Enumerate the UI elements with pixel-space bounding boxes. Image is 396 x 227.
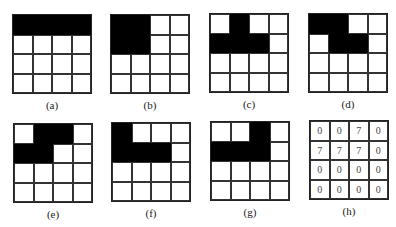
empty-cell: [170, 35, 190, 55]
filled-cell: [231, 142, 251, 162]
value-cell: 0: [369, 180, 389, 200]
empty-cell: [150, 54, 170, 74]
grid-f: [111, 122, 191, 202]
empty-cell: [72, 54, 92, 74]
panel-label: (f): [111, 207, 191, 219]
empty-cell: [132, 123, 152, 143]
grid-c: [209, 13, 289, 93]
empty-cell: [170, 15, 190, 35]
empty-cell: [269, 73, 289, 93]
empty-cell: [348, 53, 368, 73]
panel-b: (b): [110, 14, 190, 111]
empty-cell: [33, 54, 53, 74]
empty-cell: [249, 73, 269, 93]
panel-e: (e): [13, 123, 93, 220]
value-cell: 0: [369, 121, 389, 141]
empty-cell: [150, 15, 170, 35]
value-cell: 7: [330, 141, 350, 161]
empty-cell: [250, 181, 270, 201]
empty-cell: [34, 183, 54, 203]
empty-cell: [150, 74, 170, 94]
filled-cell: [131, 15, 151, 35]
filled-cell: [112, 123, 132, 143]
filled-cell: [250, 122, 270, 142]
panel-d: (d): [308, 13, 388, 110]
empty-cell: [112, 182, 132, 202]
panel-label: (b): [110, 99, 190, 111]
filled-cell: [52, 15, 72, 35]
filled-cell: [34, 144, 54, 164]
value-cell: 0: [310, 180, 330, 200]
empty-cell: [348, 14, 368, 34]
panel-label: (c): [209, 98, 289, 110]
empty-cell: [368, 73, 388, 93]
empty-cell: [230, 53, 250, 73]
panel-a: (a): [12, 14, 92, 111]
panel-label: (e): [13, 208, 93, 220]
empty-cell: [368, 53, 388, 73]
panel-f: (f): [111, 122, 191, 219]
empty-cell: [309, 53, 329, 73]
empty-cell: [151, 182, 171, 202]
empty-cell: [151, 123, 171, 143]
value-cell: 0: [330, 160, 350, 180]
empty-cell: [249, 14, 269, 34]
empty-cell: [231, 181, 251, 201]
grid-g: [210, 121, 290, 201]
empty-cell: [52, 74, 72, 94]
filled-cell: [329, 14, 349, 34]
empty-cell: [269, 53, 289, 73]
empty-cell: [72, 35, 92, 55]
empty-cell: [112, 162, 132, 182]
value-cell: 0: [369, 141, 389, 161]
empty-cell: [269, 34, 289, 54]
value-cell: 0: [369, 160, 389, 180]
value-cell: 0: [330, 121, 350, 141]
empty-cell: [72, 74, 92, 94]
empty-cell: [73, 183, 93, 203]
panel-h: 0070777000000000(h): [309, 120, 389, 217]
empty-cell: [13, 74, 33, 94]
filled-cell: [13, 15, 33, 35]
filled-cell: [14, 144, 34, 164]
value-cell: 7: [310, 141, 330, 161]
empty-cell: [171, 182, 191, 202]
filled-cell: [329, 34, 349, 54]
empty-cell: [270, 161, 290, 181]
empty-cell: [111, 74, 131, 94]
panel-label: (g): [210, 206, 290, 218]
value-cell: 0: [310, 160, 330, 180]
panel-label: (h): [309, 205, 389, 217]
value-cell: 0: [349, 180, 369, 200]
filled-cell: [72, 15, 92, 35]
filled-cell: [249, 34, 269, 54]
empty-cell: [309, 73, 329, 93]
empty-cell: [270, 181, 290, 201]
empty-cell: [348, 73, 368, 93]
empty-cell: [170, 74, 190, 94]
filled-cell: [210, 34, 230, 54]
empty-cell: [150, 35, 170, 55]
empty-cell: [250, 161, 270, 181]
value-cell: 7: [349, 141, 369, 161]
empty-cell: [14, 183, 34, 203]
filled-cell: [348, 34, 368, 54]
empty-cell: [211, 161, 231, 181]
filled-cell: [111, 35, 131, 55]
filled-cell: [230, 34, 250, 54]
panel-g: (g): [210, 121, 290, 218]
empty-cell: [14, 163, 34, 183]
empty-cell: [14, 124, 34, 144]
empty-cell: [210, 14, 230, 34]
empty-cell: [132, 182, 152, 202]
panel-c: (c): [209, 13, 289, 110]
empty-cell: [249, 53, 269, 73]
value-cell: 0: [330, 180, 350, 200]
empty-cell: [52, 54, 72, 74]
filled-cell: [33, 15, 53, 35]
empty-cell: [73, 144, 93, 164]
empty-cell: [210, 73, 230, 93]
filled-cell: [211, 142, 231, 162]
empty-cell: [53, 163, 73, 183]
filled-cell: [230, 14, 250, 34]
